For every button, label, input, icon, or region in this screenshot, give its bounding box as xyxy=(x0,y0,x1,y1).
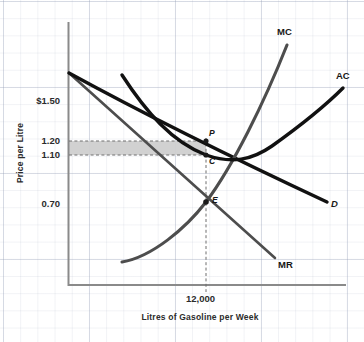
point-c-marker xyxy=(203,152,208,157)
curve-label-d: D xyxy=(331,198,338,209)
point-e-marker xyxy=(203,199,209,205)
monopoly-graph-figure: $1.50 1.20 1.10 0.70 12,000 Price per Li… xyxy=(0,0,364,342)
y-axis-title: Price per Litre xyxy=(15,107,25,199)
curve-label-mc: MC xyxy=(277,26,292,37)
y-tick-label-150: $1.50 xyxy=(12,95,60,106)
curve-label-ac: AC xyxy=(336,70,350,81)
point-p-marker xyxy=(203,138,208,143)
x-axis-title: Litres of Gasoline per Week xyxy=(110,312,290,322)
marginal-revenue-curve xyxy=(69,73,275,258)
point-label-e: E xyxy=(212,195,218,205)
x-tick-label-12000: 12,000 xyxy=(186,293,215,304)
y-tick-label-070: 0.70 xyxy=(12,198,60,209)
point-label-c: C xyxy=(209,156,215,166)
demand-curve xyxy=(69,73,327,202)
point-label-p: P xyxy=(209,128,215,138)
curve-label-mr: MR xyxy=(278,259,293,270)
plot-area xyxy=(0,0,364,342)
